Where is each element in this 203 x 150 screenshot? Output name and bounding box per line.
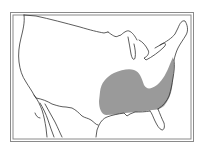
lake-huron-erie: [139, 40, 165, 60]
gulf-coast: [96, 111, 150, 137]
mexico-border: [36, 98, 98, 125]
mexico-mainland-2: [45, 104, 62, 137]
baja-coast: [34, 95, 47, 137]
gulf-of-california: [35, 113, 40, 118]
us-map-svg: [0, 0, 203, 150]
northern-border: [24, 15, 108, 33]
lake-superior: [108, 31, 137, 40]
lake-michigan: [128, 37, 135, 59]
range-map: [0, 0, 203, 150]
florida: [150, 109, 164, 130]
west-coast: [19, 15, 36, 98]
range-area: [99, 57, 174, 115]
northeast-coast: [160, 21, 188, 60]
